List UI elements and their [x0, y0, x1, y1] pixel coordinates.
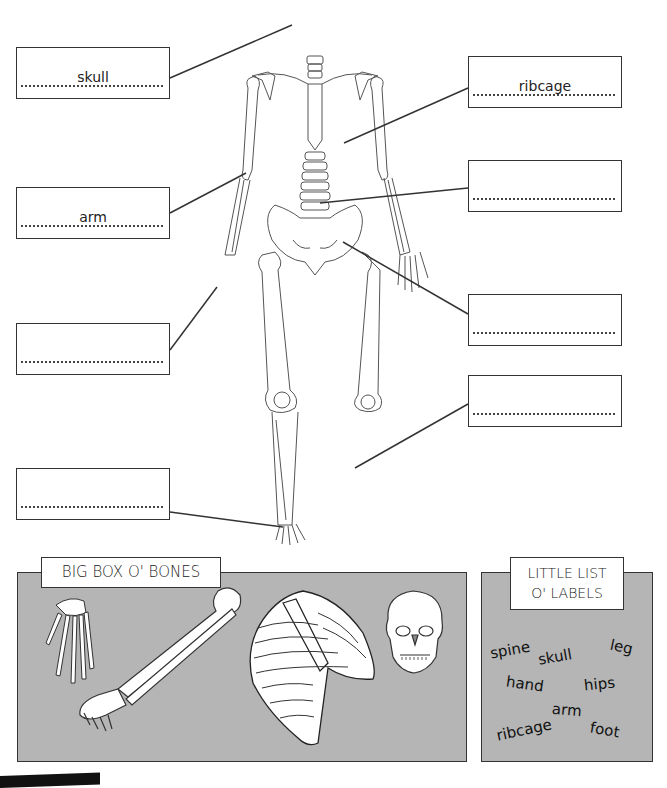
label-answer: skull: [17, 70, 169, 84]
label-word-hips[interactable]: hips: [583, 673, 616, 694]
answer-dotted-line: [473, 332, 615, 334]
label-word-foot[interactable]: foot: [589, 719, 621, 742]
label-box-left-4[interactable]: [16, 468, 170, 520]
hand-bones-icon: [46, 599, 94, 683]
answer-dotted-line: [473, 413, 615, 415]
label-box-left-3[interactable]: [16, 323, 170, 375]
label-box-left-2[interactable]: arm: [16, 187, 170, 239]
label-word-ribcage[interactable]: ribcage: [495, 715, 554, 744]
label-word-arm[interactable]: arm: [551, 700, 582, 721]
little-list-title-line1: LITTLE LIST: [511, 563, 623, 583]
big-box-title-text: BIG BOX O' BONES: [62, 563, 200, 581]
little-list-title-line2: O' LABELS: [511, 583, 623, 603]
label-box-right-4[interactable]: [468, 375, 622, 427]
ribcage-icon: [250, 591, 374, 745]
skull-icon: [386, 591, 442, 673]
label-box-right-1[interactable]: ribcage: [468, 56, 622, 108]
arm-bones-icon: [80, 588, 241, 731]
label-box-right-2[interactable]: [468, 160, 622, 212]
little-list-title: LITTLE LIST O' LABELS: [510, 557, 624, 610]
answer-dotted-line: [21, 361, 163, 363]
label-answer: arm: [17, 210, 169, 224]
bones-illustrations: [18, 573, 465, 760]
label-box-right-3[interactable]: [468, 294, 622, 346]
label-box-left-1[interactable]: skull: [16, 47, 170, 99]
answer-dotted-line: [21, 506, 163, 508]
corner-black-bar: [0, 773, 100, 788]
label-answer: ribcage: [469, 79, 621, 93]
answer-dotted-line: [473, 198, 615, 200]
answer-dotted-line: [21, 225, 163, 227]
answer-dotted-line: [473, 94, 615, 96]
label-word-spine[interactable]: spine: [489, 638, 532, 663]
big-box-of-bones: [17, 572, 467, 762]
label-word-skull[interactable]: skull: [537, 645, 574, 669]
big-box-title: BIG BOX O' BONES: [41, 557, 221, 588]
label-word-leg[interactable]: leg: [608, 636, 634, 658]
label-word-hand[interactable]: hand: [505, 672, 545, 695]
answer-dotted-line: [21, 85, 163, 87]
